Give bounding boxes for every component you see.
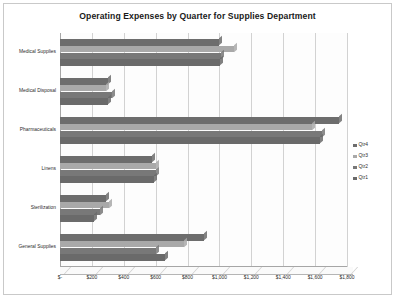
value-axis-tick-label: $1,600: [308, 276, 323, 281]
bar-depth-cap: [339, 114, 342, 123]
legend-swatch-icon: [353, 155, 357, 159]
value-axis-labels: $-$200$400$600$800$1,000$1,200$1,400$1,6…: [4, 272, 393, 294]
bar[interactable]: [60, 92, 113, 99]
bar-row: [60, 195, 347, 202]
bar-depth-cap: [152, 153, 155, 162]
bar-depth-cap: [94, 212, 97, 221]
chart-legend: Qtr4Qtr3Qtr2Qtr1: [353, 140, 393, 184]
bar-row: [60, 234, 347, 241]
bar-depth-cap: [112, 88, 115, 97]
bar[interactable]: [60, 137, 321, 144]
value-axis-tick-label: $1,800: [340, 276, 355, 281]
bar[interactable]: [60, 39, 220, 46]
plot-area: [60, 33, 347, 267]
bar[interactable]: [60, 176, 155, 183]
bar[interactable]: [60, 131, 323, 138]
bar-depth-cap: [220, 56, 223, 65]
value-axis-tick-label: $400: [118, 276, 129, 281]
bar-depth-cap: [312, 121, 315, 130]
bar[interactable]: [60, 53, 222, 60]
bar-depth-cap: [184, 238, 187, 247]
value-axis-tick-label: $200: [86, 276, 97, 281]
bar[interactable]: [60, 124, 313, 131]
legend-label: Qtr4: [359, 143, 369, 148]
bar-row: [60, 53, 347, 60]
category-axis-tick-label: Pharmaceuticals: [20, 128, 56, 133]
bar-row: [60, 131, 347, 138]
bar-depth-cap: [100, 205, 103, 214]
bar-row: [60, 59, 347, 66]
bar-row: [60, 117, 347, 124]
category-axis-labels: Medical SuppliesMedical DisposalPharmace…: [4, 33, 56, 267]
bar[interactable]: [60, 163, 157, 170]
bar[interactable]: [60, 156, 153, 163]
legend-item[interactable]: Qtr4: [353, 140, 393, 151]
bar[interactable]: [60, 248, 157, 255]
bar-depth-cap: [219, 36, 222, 45]
category-axis-tick-label: Linens: [42, 167, 56, 172]
bar-row: [60, 202, 347, 209]
bar[interactable]: [60, 78, 109, 85]
bar[interactable]: [60, 254, 166, 261]
bar-depth-cap: [109, 199, 112, 208]
bar-depth-cap: [165, 251, 168, 260]
legend-item[interactable]: Qtr2: [353, 162, 393, 173]
bar-depth-cap: [154, 173, 157, 182]
bar[interactable]: [60, 98, 109, 105]
bar-row: [60, 241, 347, 248]
category-axis-tick-label: General Supplies: [18, 245, 56, 250]
bar[interactable]: [60, 195, 107, 202]
bar-group: [60, 228, 347, 267]
bar-group: [60, 189, 347, 228]
bar-group: [60, 72, 347, 111]
legend-item[interactable]: Qtr1: [353, 173, 393, 184]
bar-depth-cap: [204, 231, 207, 240]
bar-depth-cap: [106, 82, 109, 91]
bar[interactable]: [60, 46, 235, 53]
bar-row: [60, 176, 347, 183]
legend-item[interactable]: Qtr3: [353, 151, 393, 162]
value-axis-tick-label: $1,000: [212, 276, 227, 281]
bar-row: [60, 92, 347, 99]
bar[interactable]: [60, 59, 221, 66]
bar-depth-cap: [234, 43, 237, 52]
bar-row: [60, 85, 347, 92]
bar-group: [60, 150, 347, 189]
value-axis-tick-label: $800: [182, 276, 193, 281]
value-axis-tick-label: $-: [58, 276, 62, 281]
gridline: [347, 33, 348, 267]
bar[interactable]: [60, 234, 205, 241]
value-axis-tick-label: $1,400: [276, 276, 291, 281]
bar[interactable]: [60, 170, 157, 177]
category-axis-tick-label: Sterilization: [31, 206, 56, 211]
legend-swatch-icon: [353, 144, 357, 148]
category-axis-tick-label: Medical Supplies: [19, 50, 56, 55]
bar-depth-cap: [156, 244, 159, 253]
bar-group: [60, 111, 347, 150]
bar-row: [60, 215, 347, 222]
legend-swatch-icon: [353, 166, 357, 170]
bar[interactable]: [60, 215, 95, 222]
bar-row: [60, 39, 347, 46]
bar-row: [60, 124, 347, 131]
bar[interactable]: [60, 117, 340, 124]
bar-row: [60, 254, 347, 261]
bar[interactable]: [60, 85, 107, 92]
bar-row: [60, 209, 347, 216]
bar-depth-cap: [320, 134, 323, 143]
bar[interactable]: [60, 241, 185, 248]
bar-row: [60, 163, 347, 170]
bar-group: [60, 33, 347, 72]
legend-label: Qtr1: [359, 176, 369, 181]
bar-row: [60, 170, 347, 177]
bar-row: [60, 78, 347, 85]
bar-row: [60, 156, 347, 163]
bar-row: [60, 248, 347, 255]
value-axis-tick-label: $1,200: [244, 276, 259, 281]
chart-title: Operating Expenses by Quarter for Suppli…: [4, 11, 391, 21]
category-axis-tick-label: Medical Disposal: [19, 89, 56, 94]
legend-swatch-icon: [353, 177, 357, 181]
bar-row: [60, 98, 347, 105]
bar-row: [60, 46, 347, 53]
bar-row: [60, 137, 347, 144]
